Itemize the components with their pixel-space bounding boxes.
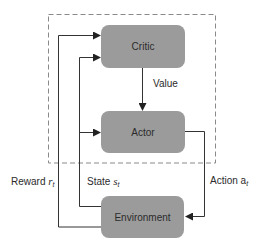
action-edge-label: Action at (210, 175, 248, 190)
reward-edge-label: Reward rt (11, 175, 54, 191)
actor-label: Actor (131, 127, 154, 138)
value-edge-label: Value (153, 78, 178, 90)
actor-critic-diagram: Critic Actor Environment Value Reward rt… (0, 0, 259, 249)
environment-label: Environment (114, 212, 170, 223)
actor-node: Actor (101, 111, 185, 153)
critic-node: Critic (101, 25, 185, 68)
environment-node: Environment (101, 196, 184, 238)
state-edge-label: State st (87, 175, 119, 191)
action-connector (185, 132, 205, 217)
critic-label: Critic (132, 41, 155, 52)
